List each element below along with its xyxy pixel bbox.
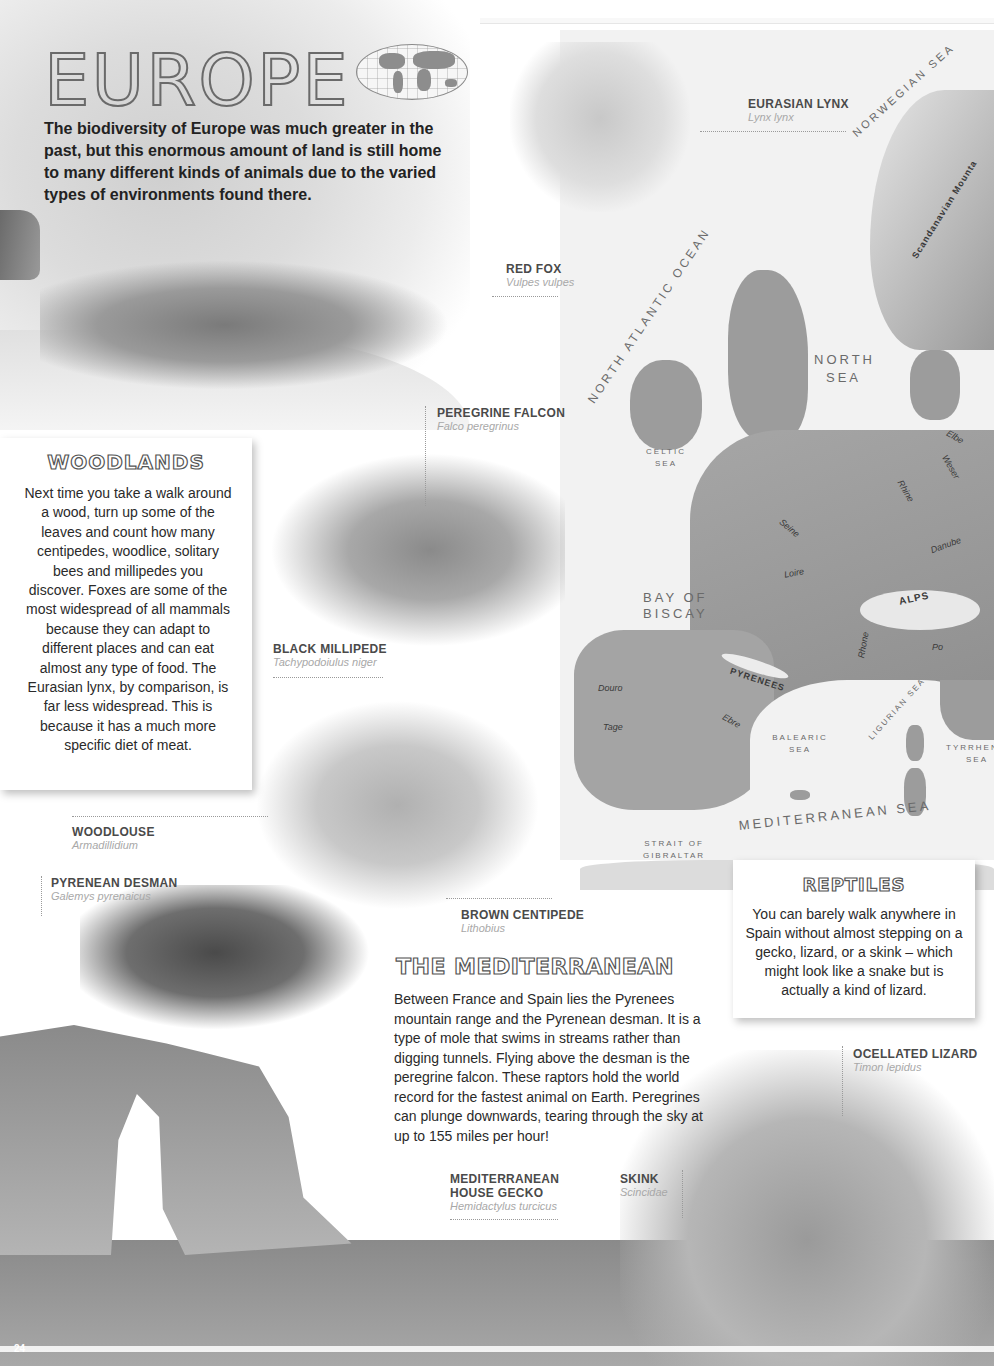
label-tyrrhenian-sea-1: Tyrrhen <box>946 742 994 753</box>
label-celtic-sea-1: Celtic <box>644 446 688 457</box>
species-name: PYRENEAN DESMAN <box>51 876 178 890</box>
species-name: RED FOX <box>506 262 574 276</box>
leader-line <box>273 677 383 678</box>
species-latin: Scincidae <box>620 1186 668 1198</box>
species-label-fox: RED FOX Vulpes vulpes <box>506 262 574 288</box>
top-band-decoration <box>480 18 994 24</box>
species-latin: Lynx lynx <box>748 111 849 123</box>
species-name: PEREGRINE FALCON <box>437 406 565 420</box>
woodlands-body: Next time you take a walk around a wood,… <box>0 474 252 756</box>
species-label-gecko: MEDITERRANEAN HOUSE GECKO Hemidactylus t… <box>450 1172 559 1212</box>
species-latin: Hemidactylus turcicus <box>450 1200 559 1212</box>
leader-line <box>682 1170 683 1218</box>
label-strait-of-gibraltar-1: Strait of <box>642 838 706 849</box>
fox-illustration <box>40 260 450 390</box>
reptiles-title: REPTILES <box>733 874 975 895</box>
species-name: BLACK MILLIPEDE <box>273 642 387 656</box>
species-latin: Lithobius <box>461 922 584 934</box>
label-river-douro: Douro <box>598 683 623 693</box>
species-latin: Tachypodoiulus niger <box>273 656 387 668</box>
label-bay-of-biscay-2: Biscay <box>643 606 708 621</box>
leader-line <box>450 1219 558 1220</box>
label-strait-of-gibraltar-2: Gibraltar <box>642 850 706 861</box>
page-number: 24 <box>14 1343 25 1354</box>
world-map-icon <box>356 44 468 100</box>
ireland-land <box>630 360 702 450</box>
desman-illustration <box>80 885 380 1035</box>
species-name-line-2: HOUSE GECKO <box>450 1186 559 1200</box>
label-river-tage: Tage <box>603 722 623 732</box>
species-label-woodlouse: WOODLOUSE Armadillidium <box>72 825 155 851</box>
label-north-sea-2: Sea <box>826 370 861 385</box>
label-celtic-sea-2: Sea <box>644 458 688 469</box>
species-name: BROWN CENTIPEDE <box>461 908 584 922</box>
page-title: EUROPE <box>44 44 350 116</box>
lynx-illustration <box>510 42 690 212</box>
species-label-desman: PYRENEAN DESMAN Galemys pyrenaicus <box>51 876 178 902</box>
species-name-line-1: MEDITERRANEAN <box>450 1172 559 1186</box>
leader-line <box>842 1046 843 1116</box>
species-name: EURASIAN LYNX <box>748 97 849 111</box>
corsica-land <box>906 725 924 761</box>
label-tyrrhenian-sea-2: Sea <box>966 754 988 765</box>
species-name: SKINK <box>620 1172 668 1186</box>
species-name: WOODLOUSE <box>72 825 155 839</box>
label-river-po: Po <box>932 642 943 652</box>
species-name: OCELLATED LIZARD <box>853 1047 978 1061</box>
species-latin: Galemys pyrenaicus <box>51 890 178 902</box>
leader-line <box>425 406 426 506</box>
leader-line <box>41 876 42 916</box>
label-bay-of-biscay-1: Bay of <box>643 590 707 605</box>
balearic-islands <box>790 790 810 800</box>
label-balearic-sea-1: Balearic <box>770 732 830 743</box>
leader-line <box>492 296 558 297</box>
mediterranean-body: Between France and Spain lies the Pyrene… <box>394 990 704 1146</box>
reptiles-card: REPTILES You can barely walk anywhere in… <box>733 860 975 1018</box>
intro-paragraph: The biodiversity of Europe was much grea… <box>44 118 444 206</box>
species-latin: Vulpes vulpes <box>506 276 574 288</box>
species-label-lizard: OCELLATED LIZARD Timon lepidus <box>853 1047 978 1073</box>
leader-line <box>72 816 268 817</box>
species-label-skink: SKINK Scincidae <box>620 1172 668 1198</box>
species-label-centipede: BROWN CENTIPEDE Lithobius <box>461 908 584 934</box>
woodlands-title: WOODLANDS <box>0 450 252 474</box>
great-britain-land <box>728 270 808 440</box>
species-label-lynx: EURASIAN LYNX Lynx lynx <box>748 97 849 123</box>
leader-line <box>700 131 846 132</box>
leaves-and-invertebrates-illustration <box>255 700 540 910</box>
species-label-millipede: BLACK MILLIPEDE Tachypodoiulus niger <box>273 642 387 668</box>
reptiles-body: You can barely walk anywhere in Spain wi… <box>733 895 975 1000</box>
species-label-falcon: PEREGRINE FALCON Falco peregrinus <box>437 406 565 432</box>
label-balearic-sea-2: Sea <box>770 744 830 755</box>
leader-line <box>446 898 552 899</box>
species-latin: Armadillidium <box>72 839 155 851</box>
rock-arch-illustration <box>0 1025 370 1255</box>
falcon-illustration <box>265 450 565 650</box>
species-latin: Timon lepidus <box>853 1061 978 1073</box>
tree-trunk-illustration <box>0 210 40 280</box>
species-latin: Falco peregrinus <box>437 420 565 432</box>
bottom-band-decoration <box>0 1346 994 1352</box>
woodlands-card: WOODLANDS Next time you take a walk arou… <box>0 438 252 790</box>
mediterranean-title: THE MEDITERRANEAN <box>396 954 674 979</box>
denmark-land <box>910 350 960 420</box>
label-north-sea-1: North <box>814 352 875 367</box>
